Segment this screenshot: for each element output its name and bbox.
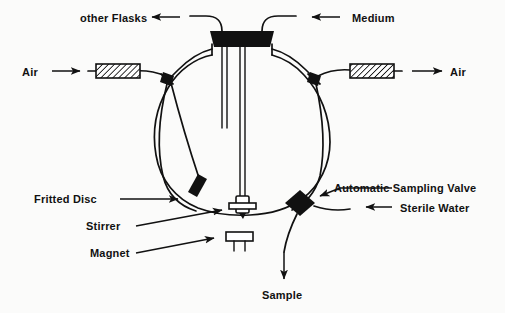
air-inlet-filter xyxy=(96,64,140,78)
right-tube-clamp xyxy=(307,72,321,86)
stirrer-arrow xyxy=(136,210,222,226)
sterile-water-assembly: Sterile Water xyxy=(314,202,470,214)
air-out-label: Air xyxy=(450,66,466,78)
round-bottom-flask xyxy=(155,44,331,215)
magnet-label-group: Magnet xyxy=(90,238,214,259)
magnet-label: Magnet xyxy=(90,247,130,259)
air-outlet-filter xyxy=(350,64,394,78)
other-flasks-label: other Flasks xyxy=(80,12,147,24)
fritted-disc-label: Fritted Disc xyxy=(34,193,97,205)
stirrer-magnet xyxy=(226,232,253,251)
stirrer-label: Stirrer xyxy=(86,220,121,232)
left-tube-clamp xyxy=(160,72,174,86)
air-inlet-assembly: Air xyxy=(22,64,140,78)
sample-assembly: Sample xyxy=(262,214,302,301)
rubber-stopper xyxy=(210,31,274,47)
sterile-water-label: Sterile Water xyxy=(400,202,470,214)
magnet-arrow xyxy=(136,238,214,253)
other-flasks-assembly: other Flasks xyxy=(80,12,222,31)
stirrer-label-group: Stirrer xyxy=(86,210,222,232)
sampling-valve-text-group: Automatic Sampling Valve xyxy=(334,182,476,194)
automatic-sampling-valve-text: Automatic Sampling Valve xyxy=(334,182,476,194)
apparatus-diagram: Air Air other Flasks Medium xyxy=(0,0,505,313)
automatic-sampling-valve xyxy=(285,190,315,216)
air-in-label: Air xyxy=(22,66,38,78)
fritted-disc-label-group: Fritted Disc xyxy=(34,193,178,205)
fritted-disc xyxy=(188,174,207,197)
medium-label: Medium xyxy=(352,12,395,24)
apparatus-svg: Air Air other Flasks Medium xyxy=(0,0,505,313)
sample-label: Sample xyxy=(262,289,302,301)
air-outlet-assembly: Air xyxy=(350,64,466,78)
medium-assembly: Medium xyxy=(262,12,395,31)
